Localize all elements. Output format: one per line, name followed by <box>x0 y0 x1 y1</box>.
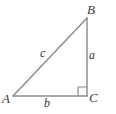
right-triangle-figure: A B C a b c <box>0 0 116 114</box>
side-label-b: b <box>44 97 50 109</box>
vertex-label-b: B <box>87 3 95 16</box>
side-c-hypotenuse-line <box>13 18 87 96</box>
side-label-c: c <box>40 47 45 59</box>
vertex-label-a: A <box>2 92 10 105</box>
triangle-drawing <box>0 0 116 114</box>
side-label-a: a <box>89 49 95 61</box>
right-angle-marker-icon <box>78 87 87 96</box>
vertex-label-c: C <box>89 91 98 104</box>
